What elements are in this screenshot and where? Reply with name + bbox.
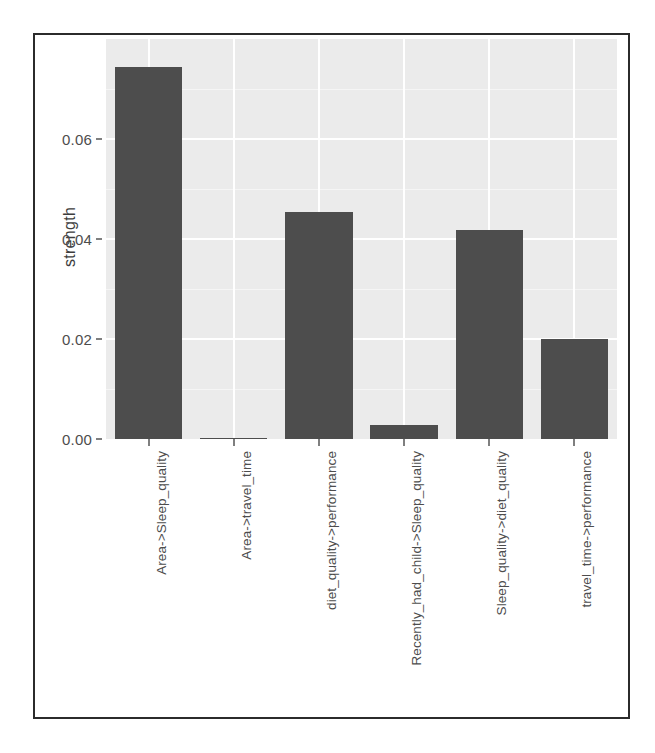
gridline-major-horizontal (106, 238, 617, 240)
x-tick-label: travel_time->performance (579, 451, 594, 608)
bar (115, 67, 182, 439)
x-tick-mark (573, 439, 575, 446)
bar (370, 425, 437, 439)
x-tick-label: Sleep_quality->diet_quality (494, 451, 509, 615)
y-tick-label: 0.04 (62, 231, 92, 248)
plot-area (106, 39, 617, 439)
x-tick-mark (318, 439, 320, 446)
y-axis-tick-labels: 0.000.020.040.06 (35, 35, 106, 439)
gridline-minor-horizontal (106, 89, 617, 90)
gridline-minor-horizontal (106, 189, 617, 190)
x-tick-label: Area->Sleep_quality (154, 451, 169, 575)
y-tick-mark (96, 238, 102, 240)
bar (456, 230, 523, 439)
y-tick-label: 0.02 (62, 331, 92, 348)
y-tick-mark (96, 138, 102, 140)
gridline-major-horizontal (106, 138, 617, 140)
x-tick-mark (488, 439, 490, 446)
y-tick-label: 0.06 (62, 131, 92, 148)
y-tick-label: 0.00 (62, 431, 92, 448)
bar (285, 212, 352, 439)
x-axis: Area->Sleep_qualityArea->travel_timediet… (106, 439, 617, 719)
x-tick-label: diet_quality->performance (324, 451, 339, 610)
x-tick-mark (403, 439, 405, 446)
gridline-minor-horizontal (106, 289, 617, 290)
y-tick-mark (96, 438, 102, 440)
x-tick-label: Recently_had_child->Sleep_quality (409, 451, 424, 666)
gridline-major-vertical (233, 39, 235, 439)
x-tick-mark (148, 439, 150, 446)
figure-frame: strength 0.000.020.040.06 Area->Sleep_qu… (33, 33, 630, 719)
y-tick-mark (96, 338, 102, 340)
gridline-major-vertical (403, 39, 405, 439)
bar (541, 339, 608, 439)
x-tick-mark (233, 439, 235, 446)
x-tick-label: Area->travel_time (239, 451, 254, 560)
